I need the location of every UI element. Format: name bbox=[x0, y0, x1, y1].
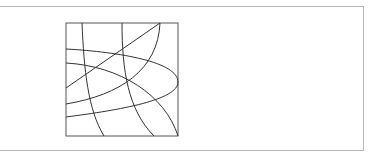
curve-0 bbox=[82, 23, 104, 136]
curve-group bbox=[66, 23, 178, 136]
curve-4 bbox=[66, 49, 178, 117]
line-diagram bbox=[0, 0, 383, 160]
curve-5 bbox=[66, 63, 178, 136]
curve-2 bbox=[66, 23, 160, 88]
